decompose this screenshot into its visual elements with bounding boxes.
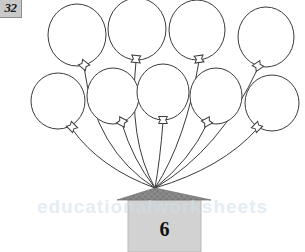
balloon-body	[238, 7, 294, 67]
balloon-4	[238, 7, 294, 71]
balloon-body	[190, 68, 242, 124]
balloon-string	[155, 129, 257, 188]
balloon-body	[31, 73, 85, 129]
balloon-body	[245, 75, 299, 131]
balloon-3	[169, 0, 225, 63]
balloon-5	[31, 73, 85, 133]
balloon-2	[108, 0, 166, 63]
balloon-knot	[159, 117, 168, 124]
house-roof	[117, 188, 211, 200]
balloon-body	[48, 4, 106, 66]
balloon-body	[108, 0, 166, 60]
balloon-knot	[194, 55, 204, 63]
balloons-house-illustration	[0, 0, 305, 252]
balloon-7	[137, 64, 189, 124]
balloon-body	[87, 68, 139, 124]
house-number-label: 6	[128, 218, 201, 241]
balloon-1	[48, 4, 106, 71]
balloons-group	[31, 0, 299, 133]
balloon-8	[190, 68, 242, 127]
balloon-body	[137, 64, 189, 120]
balloon-string	[155, 122, 163, 188]
balloon-body	[169, 0, 225, 60]
worksheet-page: educationalworksheets 6 32	[0, 0, 305, 252]
balloon-9	[245, 75, 299, 133]
page-number-badge: 32	[0, 0, 22, 18]
balloon-6	[87, 68, 139, 127]
